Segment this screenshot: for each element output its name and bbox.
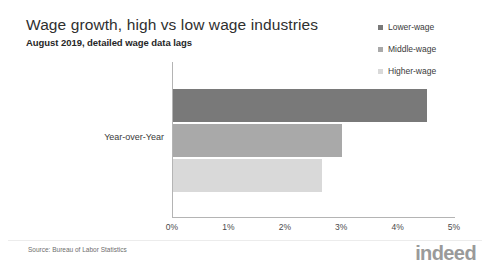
- x-axis-tick: 4%: [391, 222, 403, 232]
- category-axis-label: Year-over-Year: [60, 132, 164, 142]
- footer-divider: [8, 240, 482, 241]
- x-axis-tick: 1%: [222, 222, 234, 232]
- bars-group: [173, 89, 455, 194]
- legend-item-middle-wage: Middle-wage: [378, 39, 474, 59]
- x-axis-tick: 3%: [335, 222, 347, 232]
- legend-swatch-icon: [378, 25, 383, 30]
- source-note: Source: Bureau of Labor Statistics: [28, 246, 127, 253]
- bar-row: [173, 159, 455, 192]
- x-axis-tick-labels: 0%1%2%3%4%5%: [172, 222, 455, 236]
- bar-higher-wage: [173, 159, 322, 192]
- bar-middle-wage: [173, 124, 342, 157]
- x-axis-tick: 2%: [279, 222, 291, 232]
- x-axis-tick: 0%: [166, 222, 178, 232]
- header-block: Wage growth, high vs low wage industries…: [26, 16, 326, 48]
- indeed-logo: indeed: [415, 243, 476, 263]
- x-axis-tick: 5%: [448, 222, 460, 232]
- bar-lower-wage: [173, 89, 427, 122]
- bar-row: [173, 124, 455, 157]
- chart-card: Wage growth, high vs low wage industries…: [0, 0, 490, 279]
- x-axis-line: [172, 217, 455, 218]
- legend-item-lower-wage: Lower-wage: [378, 17, 474, 37]
- legend-label: Lower-wage: [388, 22, 434, 32]
- bar-row: [173, 89, 455, 122]
- page-title: Wage growth, high vs low wage industries: [26, 16, 326, 34]
- legend-label: Middle-wage: [388, 44, 436, 54]
- chart-subtitle: August 2019, detailed wage data lags: [26, 37, 326, 48]
- plot-area: [172, 62, 455, 218]
- legend-swatch-icon: [378, 47, 383, 52]
